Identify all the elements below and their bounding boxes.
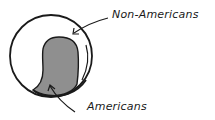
non-americans-label: Non-Americans — [112, 9, 199, 20]
americans-label: Americans — [87, 101, 147, 112]
